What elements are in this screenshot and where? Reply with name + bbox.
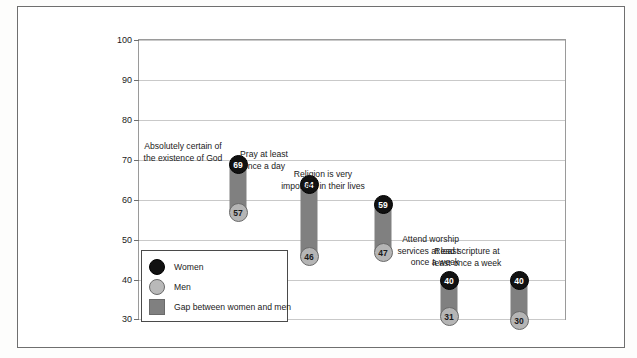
gridline-80 bbox=[139, 120, 565, 121]
legend-label-women: Women bbox=[174, 262, 203, 272]
ytick-mark-100 bbox=[134, 40, 139, 41]
chart-page: 100 90 80 70 60 50 40 30 Absol bbox=[0, 0, 637, 358]
ytick-mark-30 bbox=[134, 319, 139, 320]
gridline-50 bbox=[139, 240, 565, 241]
ytick-mark-50 bbox=[134, 240, 139, 241]
legend-item-men: Men bbox=[149, 277, 280, 297]
dumbbell-group-4: Attend worship services at least once a … bbox=[439, 40, 459, 321]
marker-men-1[interactable]: 57 bbox=[229, 203, 248, 222]
ytick-mark-40 bbox=[134, 280, 139, 281]
ytick-label-60: 60 bbox=[122, 196, 132, 205]
dumbbell-group-3: Religion is very important in their live… bbox=[373, 40, 393, 321]
dumbbell-group-5: Read scripture at least once a week 40 3… bbox=[509, 40, 529, 321]
ytick-mark-90 bbox=[134, 80, 139, 81]
marker-men-4[interactable]: 31 bbox=[440, 307, 459, 326]
legend-item-women: Women bbox=[149, 257, 280, 277]
marker-women-4[interactable]: 40 bbox=[440, 271, 459, 290]
legend-label-gap: Gap between women and men bbox=[174, 302, 291, 312]
ytick-label-80: 80 bbox=[122, 116, 132, 125]
gridline-90 bbox=[139, 80, 565, 81]
gridline-60 bbox=[139, 200, 565, 201]
ytick-mark-60 bbox=[134, 200, 139, 201]
document-frame: 100 90 80 70 60 50 40 30 Absol bbox=[17, 6, 625, 348]
legend-swatch-women-circle-icon bbox=[149, 259, 165, 275]
marker-women-5[interactable]: 40 bbox=[510, 271, 529, 290]
marker-women-3[interactable]: 59 bbox=[374, 195, 393, 214]
chart-legend: Women Men Gap between women and men bbox=[141, 250, 288, 322]
ytick-label-90: 90 bbox=[122, 76, 132, 85]
marker-men-2[interactable]: 46 bbox=[300, 247, 319, 266]
marker-men-5[interactable]: 30 bbox=[510, 311, 529, 330]
legend-swatch-men-circle-icon bbox=[149, 279, 165, 295]
gap-bar-2 bbox=[301, 184, 318, 256]
gridline-100 bbox=[139, 40, 565, 41]
legend-label-men: Men bbox=[174, 282, 191, 292]
ytick-label-100: 100 bbox=[117, 36, 132, 45]
ytick-mark-80 bbox=[134, 120, 139, 121]
legend-item-gap: Gap between women and men bbox=[149, 297, 280, 317]
ytick-label-40: 40 bbox=[122, 276, 132, 285]
series-label-5: Read scripture at least once a week bbox=[415, 246, 519, 269]
series-label-3: Religion is very important in their live… bbox=[263, 169, 383, 192]
legend-swatch-gap-rect-icon bbox=[149, 299, 165, 315]
ytick-label-30: 30 bbox=[122, 315, 132, 324]
ytick-label-50: 50 bbox=[122, 236, 132, 245]
